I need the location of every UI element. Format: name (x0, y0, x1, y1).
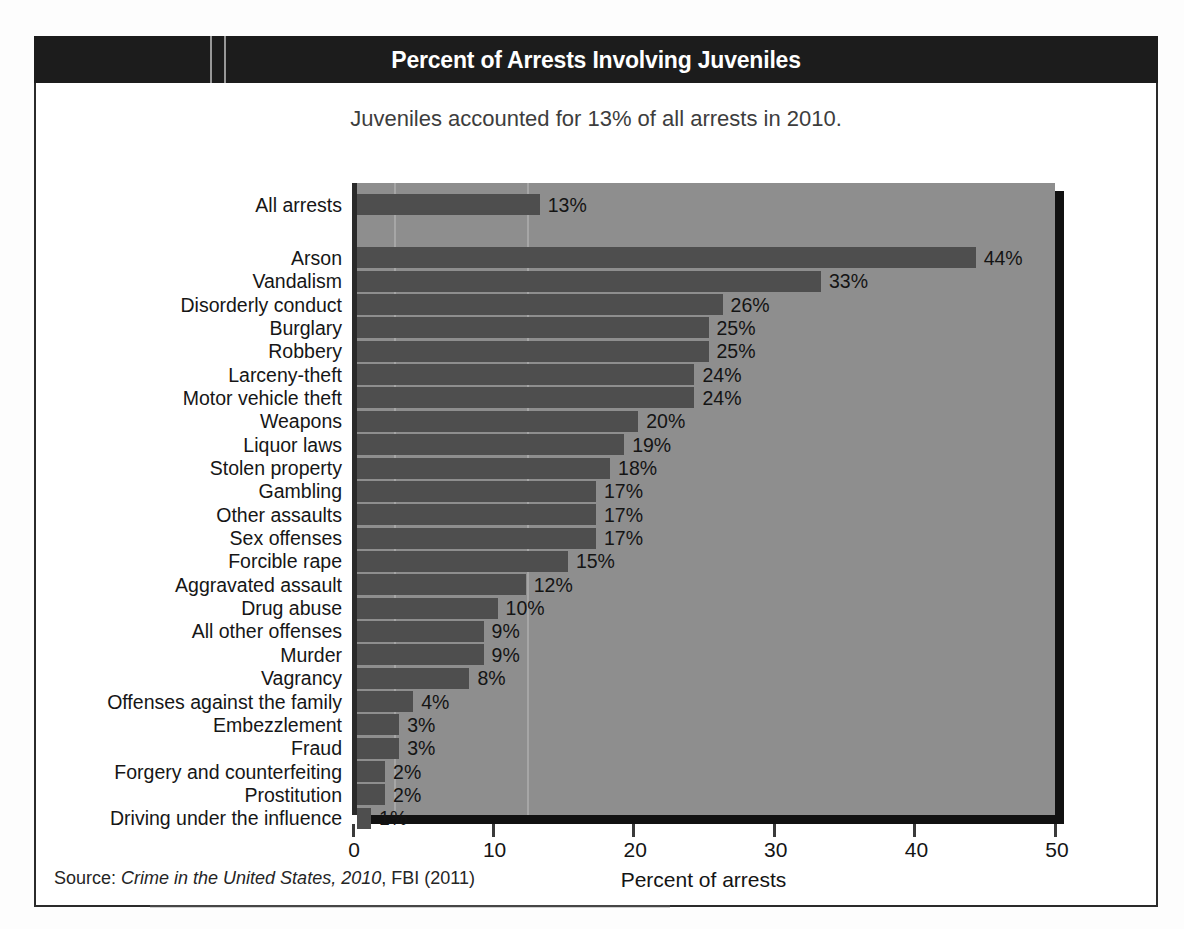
bar-value-label: 17% (596, 480, 643, 503)
bar-row: Stolen property18% (34, 458, 1158, 479)
x-axis-tick-label: 40 (905, 838, 928, 862)
bar-row: Fraud3% (34, 738, 1158, 759)
bar-value-label: 17% (596, 503, 643, 526)
bar (357, 434, 624, 455)
bar-row: Gambling17% (34, 481, 1158, 502)
bar-chart: All arrests13%Arson44%Vandalism33%Disord… (34, 83, 1158, 907)
x-axis: 01020304050 (34, 824, 1158, 864)
bar (357, 481, 596, 502)
bar-category-label: Larceny-theft (52, 363, 352, 386)
bar-value-label: 12% (526, 573, 573, 596)
bar (357, 341, 709, 362)
bar-category-label: Robbery (52, 340, 352, 363)
bar-category-label: Gambling (52, 480, 352, 503)
bar-category-label: Burglary (52, 316, 352, 339)
bar-value-label: 3% (399, 737, 435, 760)
bar-value-label: 4% (413, 690, 449, 713)
bar-row: Robbery25% (34, 341, 1158, 362)
bar-row: Arson44% (34, 247, 1158, 268)
bar-value-label: 20% (638, 410, 685, 433)
bar-value-label: 19% (624, 433, 671, 456)
bar-category-label: Forcible rape (52, 550, 352, 573)
bar-row: Vandalism33% (34, 271, 1158, 292)
source-prefix: Source: (54, 868, 121, 888)
bar (357, 598, 498, 619)
bar-value-label: 9% (484, 643, 520, 666)
bar-category-label: Stolen property (52, 457, 352, 480)
source-note: Source: Crime in the United States, 2010… (54, 868, 475, 889)
bar-row: Forgery and counterfeiting2% (34, 761, 1158, 782)
bar-category-label: Offenses against the family (52, 690, 352, 713)
bar (357, 247, 976, 268)
bar (357, 621, 484, 642)
bar-row: Prostitution2% (34, 784, 1158, 805)
bar-row: Liquor laws19% (34, 434, 1158, 455)
bar (357, 271, 821, 292)
bar-value-label: 13% (540, 193, 587, 216)
bar-row: Embezzlement3% (34, 714, 1158, 735)
bar (357, 644, 484, 665)
bar-row: Sex offenses17% (34, 528, 1158, 549)
bar (357, 551, 568, 572)
bar (357, 411, 638, 432)
bar-value-label: 3% (399, 713, 435, 736)
bar-category-label: Vandalism (52, 270, 352, 293)
bar-row: Drug abuse10% (34, 598, 1158, 619)
bar-row: Offenses against the family4% (34, 691, 1158, 712)
bar (357, 317, 709, 338)
bar-row: Weapons20% (34, 411, 1158, 432)
bar-category-label: Prostitution (52, 783, 352, 806)
x-axis-tick-mark (773, 824, 776, 837)
bar-row: Murder9% (34, 644, 1158, 665)
bar (357, 504, 596, 525)
bar (357, 574, 526, 595)
bar (357, 387, 694, 408)
x-axis-tick-mark (352, 824, 355, 837)
bar-rows: All arrests13%Arson44%Vandalism33%Disord… (34, 83, 1158, 907)
bar-category-label: Forgery and counterfeiting (52, 760, 352, 783)
bar-value-label: 8% (469, 667, 505, 690)
x-axis-tick-label: 20 (624, 838, 647, 862)
bar-value-label: 33% (821, 270, 868, 293)
bar-category-label: All other offenses (52, 620, 352, 643)
bar-row: Forcible rape15% (34, 551, 1158, 572)
bar-category-label: Drug abuse (52, 597, 352, 620)
chart-page: Percent of Arrests Involving Juveniles J… (0, 0, 1184, 929)
source-suffix: , FBI (2011) (381, 868, 475, 888)
bar (357, 294, 723, 315)
bar-category-label: Aggravated assault (52, 573, 352, 596)
bar-category-label: Embezzlement (52, 713, 352, 736)
bar-value-label: 9% (484, 620, 520, 643)
bar-row: Other assaults17% (34, 504, 1158, 525)
bar (357, 458, 610, 479)
x-axis-tick-label: 30 (764, 838, 787, 862)
bar-category-label: Liquor laws (52, 433, 352, 456)
bar-row: Burglary25% (34, 317, 1158, 338)
bar-row: Larceny-theft24% (34, 364, 1158, 385)
bar-row: Vagrancy8% (34, 668, 1158, 689)
bar (357, 784, 385, 805)
bar-value-label: 15% (568, 550, 615, 573)
bar-row: All arrests13% (34, 194, 1158, 215)
bar (357, 761, 385, 782)
x-axis-tick-mark (1054, 824, 1057, 837)
bar (357, 691, 413, 712)
bar-row: Motor vehicle theft24% (34, 387, 1158, 408)
bar-value-label: 24% (694, 386, 741, 409)
bar-category-label: All arrests (52, 193, 352, 216)
bar-category-label: Murder (52, 643, 352, 666)
bar-value-label: 2% (385, 783, 421, 806)
bar (357, 738, 399, 759)
bar (357, 194, 540, 215)
bar (357, 528, 596, 549)
x-axis-tick-label: 0 (348, 838, 360, 862)
bar-category-label: Fraud (52, 737, 352, 760)
bar-category-label: Sex offenses (52, 527, 352, 550)
bar-category-label: Weapons (52, 410, 352, 433)
bar (357, 714, 399, 735)
scan-artifact (150, 905, 670, 908)
bar-row: Aggravated assault12% (34, 574, 1158, 595)
bar-value-label: 18% (610, 457, 657, 480)
bar (357, 364, 694, 385)
page-title: Percent of Arrests Involving Juveniles (34, 46, 1158, 73)
